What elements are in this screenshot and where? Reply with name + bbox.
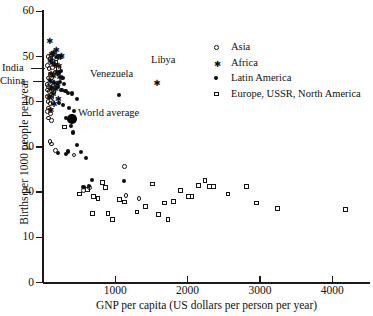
x-tick-label-1000: 1000 (95, 285, 135, 297)
data-point-series-3 (122, 200, 127, 205)
x-axis-label: GNP per capita (US dollars per person pe… (43, 299, 370, 311)
data-point-series-3 (162, 201, 167, 206)
data-point-series-3 (226, 192, 231, 197)
legend-label: Africa (231, 57, 258, 68)
data-point-series-0 (49, 142, 54, 147)
data-point-series-3 (96, 196, 101, 201)
data-point-series-2 (122, 179, 126, 183)
leader-line (31, 68, 45, 69)
data-point-series-0 (124, 193, 129, 198)
data-point-series-2 (71, 130, 75, 134)
data-point-series-3 (275, 206, 280, 211)
data-point-series-3 (244, 184, 249, 189)
data-point-series-2 (72, 109, 76, 113)
asterisk-icon: ✱ (214, 61, 220, 67)
y-tick-label-60: 60 (0, 5, 34, 17)
data-point-series-2 (67, 106, 71, 110)
data-point-series-3 (143, 204, 148, 209)
data-point-series-2 (70, 91, 74, 95)
data-point-series-3 (85, 187, 90, 192)
data-point-series-3 (100, 180, 105, 185)
data-point-series-3 (178, 188, 183, 193)
data-point-series-2 (117, 93, 121, 97)
data-point-series-3 (106, 211, 111, 216)
data-point-series-2 (75, 143, 79, 147)
data-point-series-3 (211, 184, 216, 189)
data-point-series-3 (343, 207, 348, 212)
world-average-marker (67, 114, 77, 124)
data-point-series-3 (56, 66, 61, 71)
y-axis-label: Births per 1000 people per year (18, 67, 30, 237)
data-point-series-0 (137, 196, 142, 201)
x-tick-label-2000: 2000 (168, 285, 208, 297)
y-tick-10 (36, 237, 43, 238)
y-tick-50 (36, 56, 43, 57)
y-tick-30 (36, 146, 43, 147)
data-point-series-3 (110, 217, 115, 222)
data-point-series-1: ✱ (47, 107, 53, 113)
scatter-chart: 01020304050601000200030004000 ✱✱✱✱✱✱✱✱✱✱… (0, 0, 373, 316)
data-point-series-3 (171, 199, 176, 204)
data-point-series-3 (117, 197, 122, 202)
data-point-series-2 (75, 97, 79, 101)
x-tick-4000 (332, 276, 333, 283)
annotation-libya: Libya (151, 54, 176, 65)
data-point-series-3 (190, 194, 195, 199)
y-tick-0 (36, 282, 43, 283)
filled-circle-icon (214, 76, 218, 80)
data-point-series-2 (62, 82, 66, 86)
x-tick-3000 (259, 276, 260, 283)
data-point-series-0 (49, 118, 54, 123)
data-point-series-2 (90, 178, 94, 182)
y-tick-20 (36, 191, 43, 192)
data-point-series-3 (90, 211, 95, 216)
data-point-series-2 (69, 124, 73, 128)
data-point-series-2 (64, 152, 68, 156)
annotation-venezuela: Venezuela (90, 68, 133, 79)
y-tick-label-50: 50 (0, 51, 34, 63)
open-square-icon (214, 92, 219, 97)
data-point-series-3 (103, 185, 108, 190)
legend-label: Europe, USSR, North America (231, 88, 361, 99)
data-point-series-3 (254, 201, 259, 206)
data-point-series-3 (203, 178, 208, 183)
data-point-series-3 (77, 192, 82, 197)
legend-label: Latin America (231, 72, 291, 83)
data-point-series-2 (56, 151, 60, 155)
x-tick-2000 (187, 276, 188, 283)
data-point-series-2 (79, 150, 83, 154)
y-tick-label-0: 0 (0, 277, 34, 289)
data-point-series-1: ✱ (46, 38, 52, 44)
data-point-series-3 (135, 210, 140, 215)
x-tick-1000 (115, 276, 116, 283)
open-circle-icon (214, 45, 219, 50)
x-tick-label-4000: 4000 (312, 285, 352, 297)
legend-label: Asia (231, 41, 250, 52)
x-tick-label-3000: 3000 (240, 285, 280, 297)
data-point-series-2 (61, 103, 65, 107)
y-tick-40 (36, 101, 43, 102)
y-tick-60 (36, 11, 43, 12)
data-point-series-3 (156, 212, 161, 217)
leader-line (33, 81, 45, 82)
data-point-series-1: ✱ (58, 53, 64, 59)
data-point-series-3 (196, 183, 201, 188)
data-point-series-0 (72, 153, 77, 158)
data-point-series-3 (166, 217, 171, 222)
data-point-series-3 (54, 60, 59, 65)
data-point-series-2 (84, 156, 88, 160)
annotation-world-average: World average (78, 107, 139, 118)
data-point-series-1: ✱ (154, 80, 160, 86)
data-point-series-3 (62, 125, 67, 130)
data-point-series-3 (150, 182, 155, 187)
data-point-series-0 (122, 164, 127, 169)
